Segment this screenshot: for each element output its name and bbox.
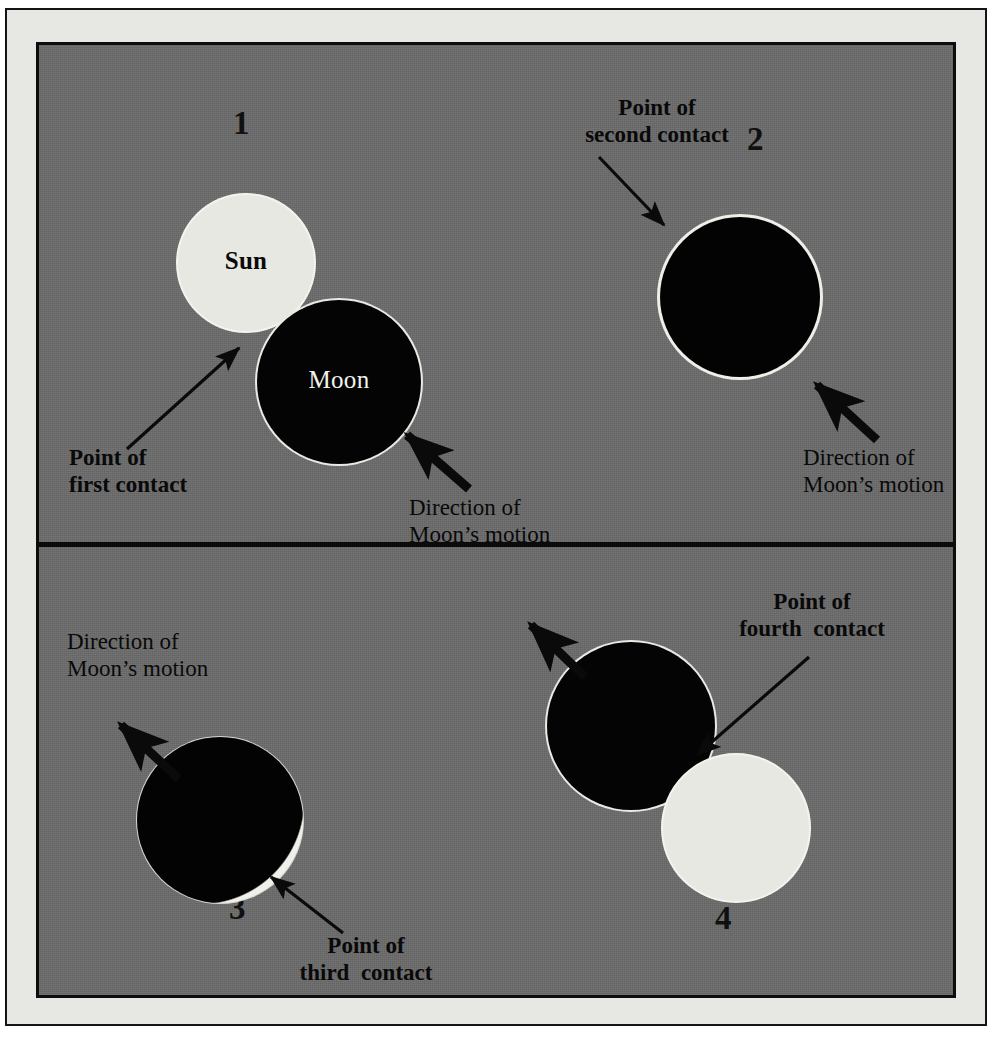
direction-of-moons-motion-label-panel-3: Direction ofMoon’s motion bbox=[67, 629, 208, 683]
point-of-first-contact-label: Point offirst contact bbox=[69, 445, 187, 499]
first-contact-line-1: Point of bbox=[69, 445, 146, 470]
sun-label: Sun bbox=[178, 247, 314, 275]
motion-line-2: Moon’s motion bbox=[803, 472, 944, 497]
fourth-contact-leader-arrow bbox=[697, 657, 809, 755]
motion-line-2: Moon’s motion bbox=[67, 656, 208, 681]
panel-4: 4 Point offourth contac bbox=[497, 547, 953, 995]
first-contact-line-2: first contact bbox=[69, 472, 187, 497]
panel-3: 3 Direction ofMoon’s motion Poin bbox=[39, 547, 497, 995]
sun-disc-panel-1: Sun bbox=[178, 195, 314, 331]
sun-disc-panel-4 bbox=[663, 755, 809, 901]
figure-page: 1 Sun Moon bbox=[0, 0, 1002, 1041]
fourth-contact-line-2: fourth contact bbox=[739, 616, 885, 641]
fourth-contact-line-1: Point of bbox=[773, 589, 850, 614]
panel-1: 1 Sun Moon bbox=[39, 45, 497, 542]
first-contact-leader-arrow bbox=[127, 348, 239, 449]
moon-motion-arrow-panel-2 bbox=[817, 385, 877, 440]
second-contact-line-1: Point of bbox=[618, 95, 695, 120]
figure-plate: 1 Sun Moon bbox=[36, 42, 956, 998]
direction-of-moons-motion-label-panel-2: Direction ofMoon’s motion bbox=[803, 445, 944, 499]
second-contact-line-2: second contact bbox=[585, 122, 729, 147]
moon-label: Moon bbox=[257, 366, 421, 394]
third-contact-line-1: Point of bbox=[327, 933, 404, 958]
point-of-fourth-contact-label: Point offourth contact bbox=[687, 589, 937, 643]
third-contact-line-2: third contact bbox=[300, 960, 433, 985]
point-of-second-contact-label: Point ofsecond contact bbox=[517, 95, 797, 149]
panel-number-1: 1 bbox=[233, 107, 250, 140]
moon-disc-totality-panel-2 bbox=[660, 217, 820, 377]
second-contact-leader-arrow bbox=[599, 157, 664, 225]
point-of-third-contact-label: Point ofthird contact bbox=[251, 933, 481, 987]
motion-line-1: Direction of bbox=[67, 629, 179, 654]
third-contact-leader-arrow bbox=[271, 877, 343, 933]
panel-number-4: 4 bbox=[715, 902, 732, 935]
moon-motion-arrow-panel-1 bbox=[407, 435, 469, 489]
moon-disc-panel-1: Moon bbox=[257, 300, 421, 464]
moon-disc-third-contact-panel-3 bbox=[137, 737, 303, 903]
panel-2: 2 Point ofsecond contact Directi bbox=[497, 45, 953, 542]
motion-line-1: Direction of bbox=[803, 445, 915, 470]
